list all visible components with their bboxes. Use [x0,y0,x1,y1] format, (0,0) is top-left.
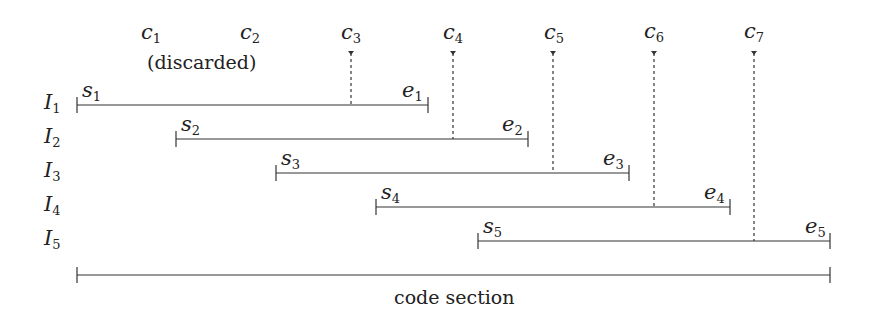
end-label-2: e2 [502,114,523,137]
start-label-3: s3 [281,148,300,171]
checkpoint-arrow-c3 [348,51,354,55]
interval-label-2: I2 [44,126,61,149]
end-label-1: e1 [402,80,423,103]
checkpoint-arrow-c5 [550,51,556,55]
checkpoint-label-c7: c7 [744,21,764,44]
interval-label-5: I5 [44,228,61,251]
diagram-canvas [0,0,877,317]
checkpoint-arrow-c7 [751,51,757,55]
end-label-4: e4 [704,182,725,205]
checkpoint-label-c3: c3 [341,22,361,45]
checkpoint-label-c2: c2 [240,22,260,45]
interval-line-2 [176,131,528,147]
interval-label-1: I1 [44,92,61,115]
checkpoint-label-c5: c5 [544,22,564,45]
checkpoint-arrow-c6 [651,51,657,55]
interval-label-3: I3 [44,160,61,183]
checkpoint-label-c1: c1 [141,22,161,45]
checkpoint-label-c4: c4 [443,22,463,45]
code-section-line [77,267,830,283]
checkpoint-label-c6: c6 [644,21,664,44]
end-label-5: e5 [805,216,826,239]
discarded-note: (discarded) [147,53,256,72]
interval-label-4: I4 [44,194,61,217]
end-label-3: e3 [603,148,624,171]
interval-line-1 [77,97,428,113]
interval-line-3 [276,165,629,181]
checkpoint-arrow-c4 [450,51,456,55]
start-label-2: s2 [181,114,200,137]
start-label-4: s4 [381,182,400,205]
start-label-1: s1 [82,80,101,103]
interval-line-5 [478,233,830,249]
code-section-label: code section [394,288,515,307]
start-label-5: s5 [483,216,502,239]
interval-line-4 [376,199,730,215]
